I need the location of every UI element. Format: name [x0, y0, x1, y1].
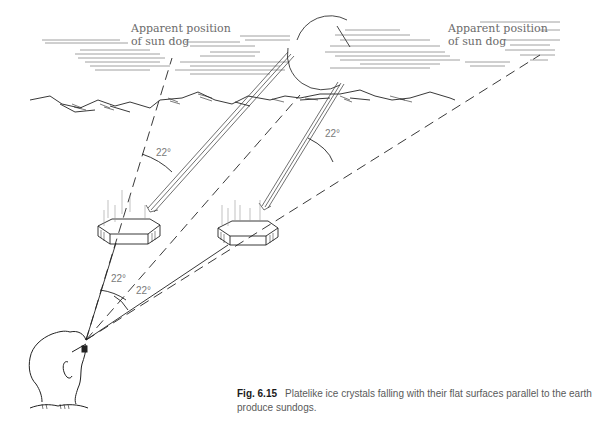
- sight-lines: [86, 55, 540, 340]
- angle-label-upper-right: 22°: [325, 128, 340, 139]
- sundog-diagram: [0, 0, 609, 431]
- angle-label-eye-lower: 22°: [136, 285, 151, 296]
- sun-rays: [146, 52, 344, 212]
- label-line-1: Apparent position: [131, 22, 231, 35]
- angle-label-upper-left: 22°: [156, 147, 171, 158]
- label-line-2: of sun dog: [448, 35, 548, 48]
- sun: [287, 16, 350, 90]
- horizon-mountains: [30, 90, 455, 112]
- right-apparent-position-label: Apparent position of sun dog: [448, 22, 548, 48]
- figure-caption: Fig. 6.15Platelike ice crystals falling …: [237, 387, 609, 415]
- left-apparent-position-label: Apparent position of sun dog: [131, 22, 231, 48]
- figure-number: Fig. 6.15: [237, 388, 277, 399]
- label-line-1: Apparent position: [448, 22, 548, 35]
- caption-text: Platelike ice crystals falling with thei…: [237, 388, 592, 413]
- observer-head: [29, 331, 88, 409]
- label-line-2: of sun dog: [131, 35, 231, 48]
- angle-arcs: [100, 138, 333, 310]
- angle-label-eye-upper: 22°: [111, 273, 126, 284]
